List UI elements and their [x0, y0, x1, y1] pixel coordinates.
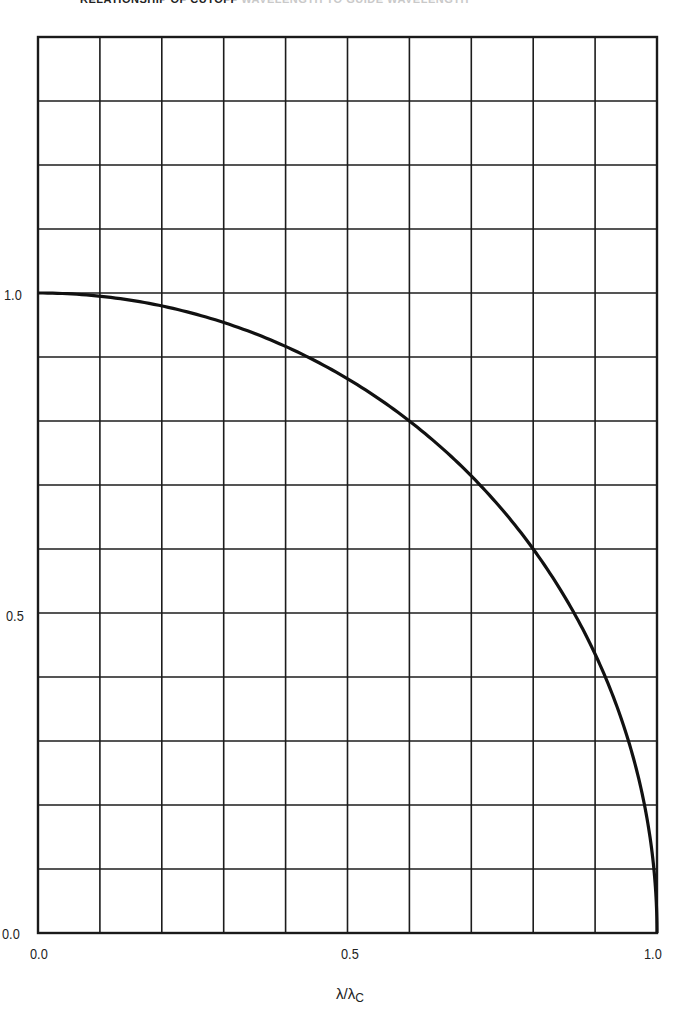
- x-tick-1: 1.0: [644, 945, 662, 962]
- y-tick-0: 0.0: [2, 925, 20, 942]
- y-tick-0-5: 0.5: [6, 607, 24, 624]
- x-tick-0-5: 0.5: [341, 945, 359, 962]
- plot-area: [0, 0, 676, 1010]
- x-axis-label: λ/λC: [336, 985, 364, 1005]
- y-tick-1: 1.0: [4, 286, 22, 303]
- x-tick-0: 0.0: [30, 945, 48, 962]
- grid-lines: [38, 37, 657, 933]
